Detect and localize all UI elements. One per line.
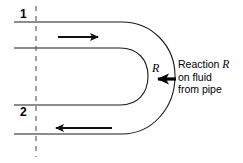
pipe-inner-wall bbox=[14, 48, 148, 105]
annotation-line-2: on fluid bbox=[178, 71, 229, 84]
reaction-annotation: Reaction R on fluid from pipe bbox=[178, 58, 229, 96]
annotation-line-3: from pipe bbox=[178, 83, 229, 96]
section-label-1: 1 bbox=[20, 8, 27, 20]
annotation-line-1: Reaction R bbox=[178, 58, 229, 71]
pipe-outer-wall bbox=[14, 22, 175, 134]
annotation-line-1-text: Reaction bbox=[178, 58, 222, 70]
annotation-line-1-symbol: R bbox=[222, 58, 229, 70]
reaction-force-label: R bbox=[152, 62, 159, 74]
section-label-2: 2 bbox=[20, 106, 27, 118]
pipe-bend-diagram: 1 2 R Reaction R on fluid from pipe bbox=[0, 0, 243, 163]
